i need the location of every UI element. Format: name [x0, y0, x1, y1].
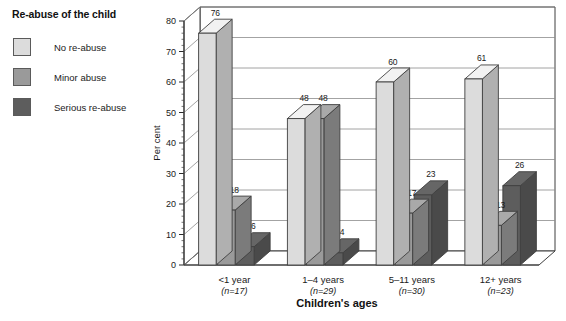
bar-value-label: 4 [340, 227, 345, 237]
x-category-label: 5–11 years [389, 274, 436, 285]
y-tick-label: 60 [166, 77, 176, 87]
bar-value-label: 60 [388, 57, 398, 67]
bar-value-label: 48 [299, 93, 309, 103]
bar-value-label: 6 [251, 221, 256, 231]
chart-svg: 01020304050607080Per cent61876<1 year(n=… [150, 0, 566, 300]
y-tick-label: 50 [166, 108, 176, 118]
bar-value-label: 26 [515, 160, 525, 170]
y-tick-label: 80 [166, 16, 176, 26]
y-axis-title: Per cent [151, 125, 162, 161]
bar-value-label: 23 [426, 169, 436, 179]
x-category-label: <1 year [218, 274, 250, 285]
legend-title: Re-abuse of the child [12, 8, 160, 20]
legend-label-no-re-abuse: No re-abuse [54, 42, 106, 53]
x-category-sublabel: (n=29) [310, 286, 336, 296]
y-tick-label: 10 [166, 230, 176, 240]
y-tick-label: 0 [171, 260, 176, 270]
y-tick-label: 40 [166, 138, 176, 148]
legend-label-minor-abuse: Minor abuse [54, 72, 106, 83]
chart-legend: Re-abuse of the child No re-abuse Minor … [10, 8, 160, 122]
y-tick-label: 70 [166, 47, 176, 57]
bar-value-label: 61 [477, 53, 487, 63]
x-category-label: 1–4 years [302, 274, 344, 285]
y-tick-label: 20 [166, 199, 176, 209]
x-category-sublabel: (n=23) [487, 286, 513, 296]
legend-swatch-no-re-abuse [13, 38, 31, 56]
x-category-label: 12+ years [480, 274, 522, 285]
chart-page: Re-abuse of the child No re-abuse Minor … [0, 0, 566, 321]
x-category-sublabel: (n=17) [221, 286, 247, 296]
x-axis-title: Children's ages [0, 297, 566, 309]
legend-item-no-re-abuse: No re-abuse [10, 32, 160, 62]
bar-chart: 01020304050607080Per cent61876<1 year(n=… [150, 0, 566, 321]
bar-1-1[interactable] [199, 19, 233, 265]
legend-item-serious-re-abuse: Serious re-abuse [10, 92, 160, 122]
legend-swatch-serious-re-abuse [13, 98, 31, 116]
x-category-sublabel: (n=30) [399, 286, 425, 296]
bar-1-4[interactable] [465, 65, 499, 265]
legend-label-serious-re-abuse: Serious re-abuse [54, 102, 126, 113]
legend-item-minor-abuse: Minor abuse [10, 62, 160, 92]
bar-value-label: 48 [318, 93, 328, 103]
bar-1-2[interactable] [287, 105, 321, 265]
bar-value-label: 76 [211, 8, 221, 18]
y-tick-label: 30 [166, 169, 176, 179]
bar-1-3[interactable] [376, 68, 410, 265]
legend-swatch-minor-abuse [13, 68, 31, 86]
